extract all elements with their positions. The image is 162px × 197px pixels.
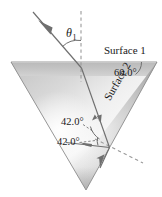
angle-42-upper-label: 42.0° (61, 117, 84, 128)
figure-canvas (0, 0, 162, 197)
prism-body (0, 62, 162, 197)
incident-ray-arrowhead (38, 20, 52, 34)
angle-60-label: 60.0° (114, 68, 137, 79)
theta-1-label: θ1 (66, 27, 76, 42)
physics-figure: Surface 1 Surface 2 60.0° 42.0° 42.0° θ1 (0, 0, 162, 197)
prism-bottom-shading (0, 140, 162, 197)
angle-42-lower-label: 42.0° (57, 137, 80, 148)
theta-subscript: 1 (72, 33, 76, 42)
surface-1-label: Surface 1 (104, 45, 146, 56)
